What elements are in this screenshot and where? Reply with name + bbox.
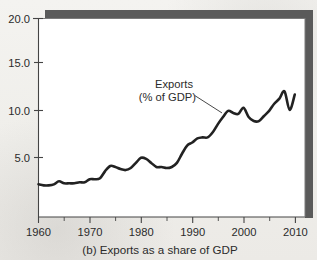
figure-panel: 20.0 15.0 10.0 5.0 1960 1970 1980 1990 2… bbox=[0, 0, 317, 260]
y-tick-label-20: 20.0 bbox=[8, 13, 30, 25]
x-tick-label-1990: 1990 bbox=[180, 226, 205, 238]
x-tick-label-2010: 2010 bbox=[283, 226, 308, 238]
x-axis-ticks bbox=[39, 217, 296, 223]
x-tick-label-1970: 1970 bbox=[78, 226, 103, 238]
x-tick-label-1980: 1980 bbox=[129, 226, 154, 238]
y-tick-label-10: 10.0 bbox=[8, 105, 30, 117]
annotation-line-2: (% of GDP) bbox=[139, 91, 196, 103]
y-axis-tick-labels: 20.0 15.0 10.0 5.0 bbox=[8, 13, 30, 164]
x-tick-label-1960: 1960 bbox=[26, 226, 51, 238]
x-axis-tick-labels: 1960 1970 1980 1990 2000 2010 bbox=[26, 226, 308, 238]
y-tick-label-5: 5.0 bbox=[14, 152, 30, 164]
exports-share-of-gdp-chart: 20.0 15.0 10.0 5.0 1960 1970 1980 1990 2… bbox=[0, 0, 317, 260]
annotation-line-1: Exports bbox=[155, 78, 193, 90]
y-tick-label-15: 15.0 bbox=[8, 57, 30, 69]
figure-caption: (b) Exports as a share of GDP bbox=[82, 243, 238, 256]
plot-area-background bbox=[38, 18, 305, 217]
x-tick-label-2000: 2000 bbox=[232, 226, 257, 238]
